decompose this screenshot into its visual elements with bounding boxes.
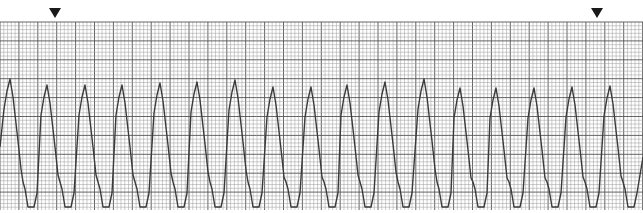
down-triangle-icon [591,8,603,18]
down-triangle-icon [49,8,61,18]
rhythm-strip [0,0,643,213]
